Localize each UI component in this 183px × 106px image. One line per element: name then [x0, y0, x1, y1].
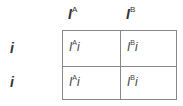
punnett-grid: IAi IBi IAi IBi — [62, 30, 177, 100]
allele-superscript: A — [72, 5, 77, 14]
genotype-tail: i — [135, 40, 138, 54]
allele-superscript: B — [130, 5, 135, 14]
genotype-tail: i — [135, 75, 138, 89]
genotype-superscript: B — [130, 39, 135, 46]
row-header-2: i — [10, 74, 14, 90]
column-header-2: IB — [126, 6, 135, 22]
cell-r1-c1: IAi — [69, 40, 80, 54]
row-header-1: i — [10, 40, 14, 56]
grid-divider-horizontal — [63, 66, 176, 67]
cell-r2-c1: IAi — [69, 75, 80, 89]
cell-r2-c2: IBi — [127, 75, 138, 89]
genotype-superscript: A — [72, 39, 77, 46]
genotype-tail: i — [77, 40, 80, 54]
column-header-1: IA — [68, 6, 77, 22]
genotype-superscript: B — [130, 74, 135, 81]
genotype-superscript: A — [72, 74, 77, 81]
cell-r1-c2: IBi — [127, 40, 138, 54]
grid-divider-vertical — [120, 31, 121, 99]
genotype-tail: i — [77, 75, 80, 89]
